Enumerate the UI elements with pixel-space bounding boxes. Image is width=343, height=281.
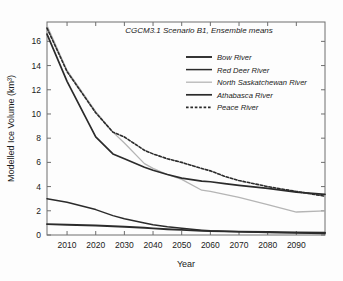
- legend-layer: Bow RiverRed Deer RiverNorth Saskatchewa…: [186, 53, 307, 112]
- series-line-north-saskatchewan-river: [47, 26, 325, 212]
- legend-label-bow-river: Bow River: [217, 53, 252, 62]
- x-tick-label: 2010: [58, 240, 77, 250]
- y-tick-label: 12: [32, 85, 42, 95]
- y-tick-label: 14: [32, 61, 42, 71]
- series-line-red-deer-river: [47, 199, 325, 234]
- y-tick-label: 0: [36, 230, 41, 240]
- chart-figure: 0246810121416201020202030204020502060207…: [0, 0, 343, 281]
- y-tick-label: 8: [36, 133, 41, 143]
- chart-title: CGCM3.1 Scenario B1, Ensemble means: [125, 26, 273, 35]
- x-tick-label: 2070: [230, 240, 249, 250]
- x-tick-label: 2040: [144, 240, 163, 250]
- legend-label-athabasca-river: Athabasca River: [216, 91, 273, 100]
- y-tick-label: 6: [36, 157, 41, 167]
- legend-label-north-saskatchewan-river: North Saskatchewan River: [217, 78, 307, 87]
- y-tick-label: 10: [32, 109, 42, 119]
- y-axis-title: Modelled Ice Volume (km³): [6, 75, 16, 182]
- x-tick-label: 2050: [172, 240, 191, 250]
- x-tick-label: 2090: [287, 240, 306, 250]
- plot-frame: [47, 22, 325, 235]
- legend-label-red-deer-river: Red Deer River: [217, 66, 270, 75]
- x-tick-label: 2030: [115, 240, 134, 250]
- chart-canvas: 0246810121416201020202030204020502060207…: [0, 0, 343, 281]
- series-line-peace-river: [47, 28, 325, 196]
- y-tick-label: 16: [32, 36, 42, 46]
- x-axis-title: Year: [177, 259, 195, 269]
- y-tick-label: 2: [36, 206, 41, 216]
- y-tick-label: 4: [36, 182, 41, 192]
- x-tick-label: 2020: [86, 240, 105, 250]
- x-tick-label: 2080: [258, 240, 277, 250]
- legend-label-peace-river: Peace River: [217, 103, 259, 112]
- x-tick-label: 2060: [201, 240, 220, 250]
- axes-layer: [47, 22, 325, 235]
- series-line-athabasca-river: [47, 34, 325, 194]
